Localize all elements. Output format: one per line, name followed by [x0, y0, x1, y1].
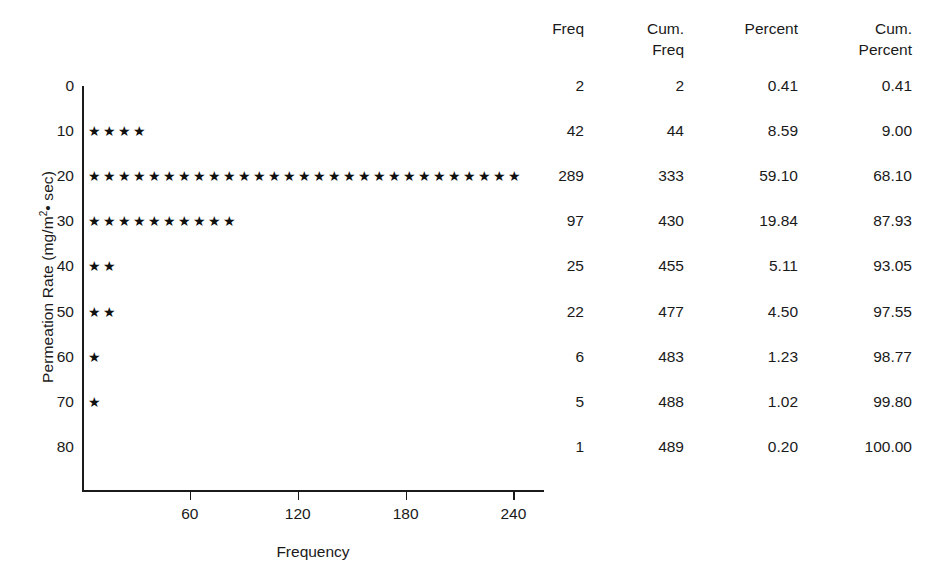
star-marker-icon: ★	[88, 213, 103, 229]
star-marker-icon: ★	[88, 258, 103, 274]
star-marker-icon: ★	[433, 168, 448, 184]
table-cell-percent: 0.20	[702, 438, 798, 456]
x-axis-tick-mark	[406, 490, 408, 500]
table-column-header: Cum.Percent	[816, 18, 912, 60]
star-marker-icon: ★	[283, 168, 298, 184]
star-marker-icon: ★	[463, 168, 478, 184]
star-marker-icon: ★	[148, 168, 163, 184]
table-column-header: Percent	[702, 18, 798, 39]
table-cell-percent: 5.11	[702, 257, 798, 275]
table-column-header: Cum.Freq	[588, 18, 684, 60]
x-axis-tick-mark	[298, 490, 300, 500]
table-cell-freq: 97	[488, 212, 584, 230]
star-marker-icon: ★	[118, 168, 133, 184]
table-cell-freq: 22	[488, 303, 584, 321]
table-cell-percent: 19.84	[702, 212, 798, 230]
star-marker-icon: ★	[178, 213, 193, 229]
star-marker-icon: ★	[88, 394, 103, 410]
x-axis-line	[82, 490, 544, 492]
star-row: ★★	[88, 258, 118, 274]
star-marker-icon: ★	[103, 213, 118, 229]
star-marker-icon: ★	[103, 304, 118, 320]
table-cell-freq: 1	[488, 438, 584, 456]
table-cell-freq: 2	[488, 77, 584, 95]
star-marker-icon: ★	[208, 213, 223, 229]
table-cell-cum-freq: 483	[588, 348, 684, 366]
table-cell-percent: 4.50	[702, 303, 798, 321]
table-cell-cum-percent: 68.10	[816, 167, 912, 185]
table-cell-percent: 59.10	[702, 167, 798, 185]
y-axis-tick-label: 40	[4, 257, 74, 275]
table-column-header: Freq	[488, 18, 584, 39]
star-marker-icon: ★	[448, 168, 463, 184]
table-cell-cum-percent: 97.55	[816, 303, 912, 321]
table-cell-cum-freq: 2	[588, 77, 684, 95]
table-cell-percent: 1.02	[702, 393, 798, 411]
table-cell-cum-percent: 98.77	[816, 348, 912, 366]
table-cell-cum-freq: 455	[588, 257, 684, 275]
table-cell-cum-freq: 477	[588, 303, 684, 321]
table-cell-cum-freq: 430	[588, 212, 684, 230]
star-marker-icon: ★	[238, 168, 253, 184]
star-marker-icon: ★	[343, 168, 358, 184]
y-axis-line	[82, 86, 84, 492]
table-column-header-line: Cum.	[588, 18, 684, 39]
star-marker-icon: ★	[133, 168, 148, 184]
y-axis-tick-label: 30	[4, 212, 74, 230]
star-marker-icon: ★	[88, 349, 103, 365]
star-marker-icon: ★	[193, 213, 208, 229]
table-column-header-line: Cum.	[816, 18, 912, 39]
x-axis-tick-label: 120	[263, 505, 333, 523]
dot-plot-chart: Permeation Rate (mg/m2• sec) 01020304050…	[0, 0, 560, 587]
table-cell-cum-freq: 44	[588, 122, 684, 140]
y-axis-tick-labels: 01020304050607080	[0, 0, 74, 587]
star-marker-icon: ★	[118, 123, 133, 139]
y-axis-tick-label: 60	[4, 348, 74, 366]
star-marker-icon: ★	[388, 168, 403, 184]
table-cell-freq: 42	[488, 122, 584, 140]
table-cell-cum-percent: 99.80	[816, 393, 912, 411]
star-marker-icon: ★	[223, 213, 238, 229]
star-marker-icon: ★	[88, 304, 103, 320]
star-marker-icon: ★	[178, 168, 193, 184]
star-row: ★★	[88, 304, 118, 320]
star-marker-icon: ★	[88, 168, 103, 184]
table-cell-freq: 25	[488, 257, 584, 275]
star-row: ★★★★★★★★★★	[88, 213, 238, 229]
star-marker-icon: ★	[103, 168, 118, 184]
x-axis-tick-mark	[513, 490, 515, 500]
x-axis-tick-label: 240	[478, 505, 548, 523]
star-marker-icon: ★	[298, 168, 313, 184]
star-marker-icon: ★	[133, 123, 148, 139]
star-row: ★★★★★★★★★★★★★★★★★★★★★★★★★★★★★	[88, 168, 523, 184]
star-marker-icon: ★	[118, 213, 133, 229]
y-axis-tick-label: 50	[4, 303, 74, 321]
star-marker-icon: ★	[313, 168, 328, 184]
x-axis-tick-mark	[190, 490, 192, 500]
table-column-header-line: Percent	[816, 39, 912, 60]
table-cell-cum-percent: 100.00	[816, 438, 912, 456]
x-axis-title: Frequency	[82, 543, 544, 561]
star-marker-icon: ★	[403, 168, 418, 184]
x-axis-tick-label: 180	[371, 505, 441, 523]
star-marker-icon: ★	[208, 168, 223, 184]
star-row: ★	[88, 394, 103, 410]
star-marker-icon: ★	[103, 123, 118, 139]
table-cell-percent: 8.59	[702, 122, 798, 140]
star-marker-icon: ★	[163, 168, 178, 184]
frequency-table: FreqCum.FreqPercentCum.Percent 220.410.4…	[560, 0, 927, 587]
star-marker-icon: ★	[88, 123, 103, 139]
star-row: ★★★★	[88, 123, 148, 139]
table-cell-freq: 5	[488, 393, 584, 411]
table-cell-percent: 1.23	[702, 348, 798, 366]
table-column-header-line: Freq	[488, 18, 584, 39]
table-cell-freq: 6	[488, 348, 584, 366]
y-axis-tick-label: 20	[4, 167, 74, 185]
star-marker-icon: ★	[358, 168, 373, 184]
star-marker-icon: ★	[253, 168, 268, 184]
star-marker-icon: ★	[418, 168, 433, 184]
table-cell-percent: 0.41	[702, 77, 798, 95]
table-column-header-line: Percent	[702, 18, 798, 39]
y-axis-tick-label: 10	[4, 122, 74, 140]
star-marker-icon: ★	[103, 258, 118, 274]
